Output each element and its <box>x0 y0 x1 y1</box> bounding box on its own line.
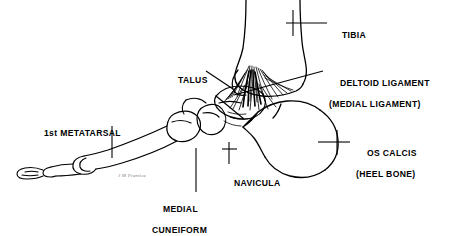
proximal-phalanx-bone <box>43 164 81 177</box>
anatomical-figure: TIBIA DELTOID LIGAMENT (MEDIAL LIGAMENT)… <box>0 0 451 235</box>
leader-talus <box>206 71 233 89</box>
label-deltoid-ligament-line2: (MEDIAL LIGAMENT) <box>329 99 430 110</box>
artist-signature: J M Prentice <box>118 173 146 178</box>
label-first-metatarsal: 1st METATARSAL <box>33 117 121 149</box>
calcaneus-bone <box>243 101 338 178</box>
label-medial-cuneiform-line2: CUNEIFORM <box>152 225 207 236</box>
label-os-calcis-line2: (HEEL BONE) <box>356 169 417 180</box>
label-talus: TALUS <box>167 64 208 96</box>
subtalar-joint-detail <box>224 112 248 126</box>
label-tibia: TIBIA <box>331 19 366 51</box>
label-deltoid-ligament: DELTOID LIGAMENT (MEDIAL LIGAMENT) <box>329 67 430 130</box>
distal-phalanx-bone <box>17 168 43 179</box>
label-medial-cuneiform: MEDIAL CUNEIFORM <box>152 193 207 235</box>
label-deltoid-ligament-line1: DELTOID LIGAMENT <box>340 78 430 88</box>
label-tibia-line1: TIBIA <box>342 30 366 40</box>
label-os-calcis: OS CALCIS (HEEL BONE) <box>356 137 417 200</box>
label-medial-cuneiform-line1: MEDIAL <box>163 204 198 214</box>
label-navicula: NAVICULA <box>223 167 281 199</box>
label-talus-line1: TALUS <box>178 75 208 85</box>
label-os-calcis-line1: OS CALCIS <box>367 148 417 158</box>
tibia-bone <box>235 0 306 96</box>
label-navicula-line1: NAVICULA <box>234 178 281 188</box>
medial-cuneiform-bone <box>167 111 201 141</box>
label-first-metatarsal-line1: 1st METATARSAL <box>44 128 121 138</box>
navicular-bone <box>197 104 226 134</box>
